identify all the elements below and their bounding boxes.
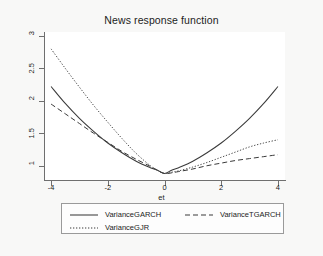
legend-line-solid-icon — [69, 210, 99, 220]
x-tick-label: -4 — [48, 184, 55, 192]
x-tick-label: -2 — [104, 184, 111, 192]
legend-line-dotted-icon — [69, 223, 99, 233]
legend-item[interactable]: VarianceGARCH — [69, 209, 161, 221]
legend-label: VarianceGJR — [105, 224, 149, 232]
legend-item[interactable]: VarianceGJR — [69, 222, 149, 234]
chart-title: News response function — [0, 14, 323, 26]
series-line-variancetgarch — [51, 104, 278, 174]
series-line-variancegjr — [51, 49, 278, 174]
x-tick-label: 4 — [276, 184, 280, 192]
series-line-variancegarch — [51, 87, 278, 174]
y-tick-label: 2 — [28, 96, 36, 100]
legend-label: VarianceGARCH — [105, 211, 161, 219]
legend-line-dashed-icon — [184, 210, 214, 220]
legend-label: VarianceTGARCH — [220, 211, 281, 219]
chart-legend: VarianceGARCHVarianceTGARCHVarianceGJR — [61, 203, 284, 234]
y-tick-label: 3 — [28, 31, 36, 35]
x-tick-label: 0 — [162, 184, 166, 192]
y-tick-label: 1 — [28, 161, 36, 165]
x-axis-title: et — [0, 193, 323, 202]
legend-item[interactable]: VarianceTGARCH — [184, 209, 281, 221]
y-tick-label: 1.5 — [28, 128, 36, 138]
y-tick-label: 2.5 — [28, 63, 36, 73]
x-tick-label: 2 — [219, 184, 223, 192]
chart-canvas: News response function 11.522.53 -4-2024… — [0, 0, 323, 256]
data-series-group — [44, 32, 285, 180]
